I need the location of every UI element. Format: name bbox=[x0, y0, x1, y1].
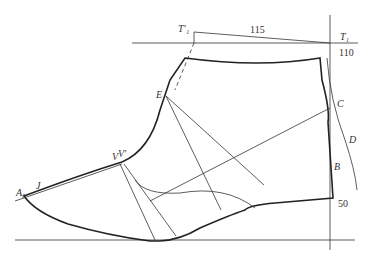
label-b: B bbox=[334, 161, 340, 172]
shoe-pattern-diagram: T′₁ 115 T₁ 110 E C D B 50 A₀ J V V′ bbox=[0, 0, 370, 256]
label-j: J bbox=[36, 180, 41, 191]
label-110: 110 bbox=[339, 47, 354, 58]
label-a0: A₀ bbox=[15, 187, 26, 198]
c-line bbox=[150, 108, 330, 201]
label-vprime: V′ bbox=[118, 148, 127, 159]
v-line-1 bbox=[120, 164, 155, 240]
label-d: D bbox=[348, 134, 357, 145]
toe-guide bbox=[15, 164, 122, 201]
dashed-guide bbox=[175, 43, 194, 90]
e-line-2 bbox=[166, 96, 264, 185]
label-115: 115 bbox=[250, 24, 265, 35]
label-t1: T₁ bbox=[340, 31, 349, 42]
label-e: E bbox=[155, 89, 162, 100]
label-50: 50 bbox=[338, 198, 348, 209]
upper-outline bbox=[24, 58, 333, 241]
label-c: C bbox=[337, 98, 344, 109]
label-t1prime: T′₁ bbox=[178, 23, 189, 34]
v-line-2 bbox=[124, 164, 176, 236]
